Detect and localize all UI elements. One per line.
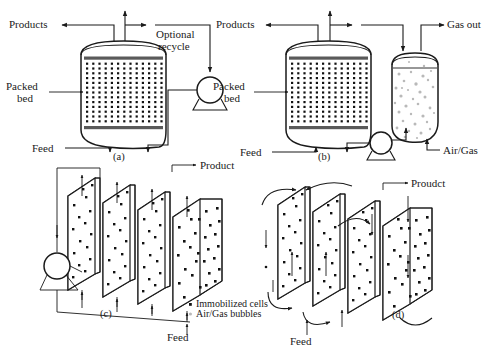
panel-c-id: (c) [100, 308, 112, 320]
panel-c-plate-3 [138, 192, 170, 304]
panel-a-optional-recycle-label-line2: recycle [158, 40, 190, 52]
reactor-configurations-diagram: Products Optional recycle Packed bed Fee… [0, 0, 485, 348]
panel-d-feed-label: Feed [290, 335, 312, 347]
panel-a-optional-recycle-label-line1: Optional [156, 28, 195, 40]
panel-d-product-label: Proudct [411, 177, 445, 189]
panel-b-packed-bed-label-line2: bed [224, 92, 240, 104]
panel-b-products-label: Products [216, 18, 255, 30]
panel-d-plate-3 [348, 201, 380, 313]
vessel-a-top-grid [84, 57, 163, 60]
panel-c-plate-1 [68, 178, 100, 290]
legend-air-gas-bubbles-label: Air/Gas bubbles [196, 308, 261, 319]
panel-a-products-label: Products [9, 18, 48, 30]
legend-immobilized-cells-marker-icon [189, 303, 192, 306]
panel-c-feed-label: Feed [167, 331, 189, 343]
panel-d-id: (d) [392, 309, 405, 321]
panel-b-feed-label: Feed [240, 146, 262, 158]
panel-a-packed-bed-label-line2: bed [17, 92, 33, 104]
vessel-a-bottom-grid [84, 126, 163, 129]
panel-a-packed-bed-label-line1: Packed [6, 80, 38, 92]
panel-b-packed-bed-label-line1: Packed [213, 80, 245, 92]
legend-air-gas-bubbles-marker-icon [189, 312, 192, 315]
panel-b-gas-out-label: Gas out [447, 18, 481, 30]
panel-d-flow-dot [265, 266, 268, 269]
panel-a-feed-label: Feed [32, 142, 54, 154]
panel-a-id: (a) [113, 151, 125, 163]
vessel-b-bottom-grid [289, 126, 368, 129]
panel-d-plate-2 [313, 194, 345, 306]
panel-b-air-gas-label: Air/Gas [443, 144, 478, 156]
figure-container: Products Optional recycle Packed bed Fee… [0, 0, 485, 348]
legend: Immobilized cells Air/Gas bubbles [189, 298, 268, 319]
panel-d-plate-1 [278, 187, 310, 299]
panel-c-product-label: Product [200, 159, 234, 171]
panel-b-id: (b) [318, 151, 331, 163]
vessel-b-top-grid [289, 57, 368, 60]
panel-c-plate-2 [103, 185, 135, 297]
